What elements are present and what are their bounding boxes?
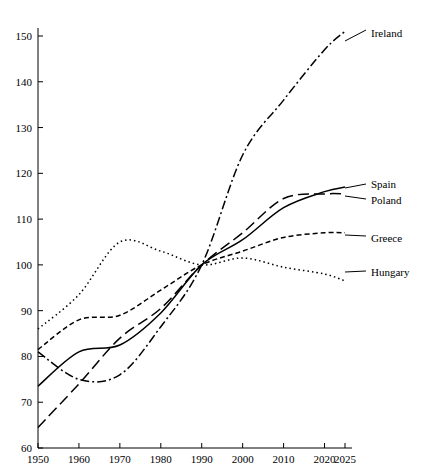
y-tick-label: 90 xyxy=(21,305,33,317)
series-line-spain xyxy=(38,187,345,386)
y-tick-label: 100 xyxy=(16,259,33,271)
series-label-ireland: Ireland xyxy=(371,27,403,39)
x-tick-label: 2020 xyxy=(314,453,337,465)
x-axis: 195019601970198019902000201020202025 xyxy=(27,443,357,465)
x-tick-label: 1990 xyxy=(191,453,214,465)
series-line-ireland xyxy=(38,31,345,381)
series-line-poland xyxy=(38,194,345,428)
y-tick-label: 120 xyxy=(16,167,33,179)
leader-line-poland xyxy=(345,196,366,199)
leader-line-greece xyxy=(345,235,366,236)
x-tick-label: 2010 xyxy=(273,453,296,465)
y-tick-label: 80 xyxy=(21,350,33,362)
x-tick-label: 1950 xyxy=(27,453,50,465)
leader-line-ireland xyxy=(345,30,366,41)
x-tick-label: 1960 xyxy=(68,453,91,465)
series-label-hungary: Hungary xyxy=(371,266,410,278)
leader-line-spain xyxy=(345,184,366,188)
series-labels: IrelandSpainPolandGreeceHungary xyxy=(345,27,410,278)
y-tick-label: 130 xyxy=(16,122,33,134)
series-label-greece: Greece xyxy=(371,232,402,244)
x-tick-label: 1980 xyxy=(150,453,173,465)
y-tick-label: 150 xyxy=(16,30,33,42)
series-label-spain: Spain xyxy=(371,178,397,190)
y-tick-label: 140 xyxy=(16,76,33,88)
x-tick-label: 2025 xyxy=(334,453,357,465)
series-label-poland: Poland xyxy=(371,194,402,206)
x-tick-label: 1970 xyxy=(109,453,132,465)
x-tick-label: 2000 xyxy=(232,453,255,465)
line-chart: 60708090100110120130140150 1950196019701… xyxy=(0,0,425,470)
series-line-greece xyxy=(38,233,345,350)
series-lines xyxy=(38,31,345,427)
y-tick-label: 110 xyxy=(16,213,33,225)
leader-line-hungary xyxy=(345,271,366,272)
chart-container: 60708090100110120130140150 1950196019701… xyxy=(0,0,425,470)
y-tick-label: 70 xyxy=(21,396,33,408)
y-axis: 60708090100110120130140150 xyxy=(16,28,44,454)
faint-header-text xyxy=(0,0,425,14)
